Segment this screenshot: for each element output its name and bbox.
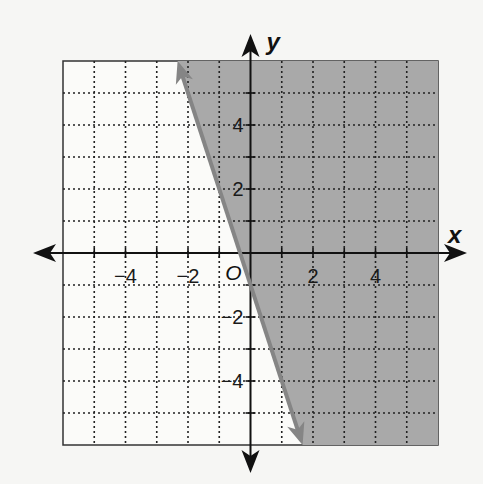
- y-axis-label: y: [266, 28, 282, 55]
- y-tick-label: 2: [232, 178, 243, 200]
- x-tick-label: 2: [307, 265, 318, 287]
- x-axis-label: x: [446, 221, 463, 248]
- y-tick-label: −4: [221, 370, 244, 392]
- y-tick-label: −2: [221, 306, 244, 328]
- x-tick-label: −2: [177, 265, 200, 287]
- origin-label: O: [225, 261, 241, 284]
- x-tick-label: −4: [114, 265, 137, 287]
- x-tick-label: 4: [370, 265, 381, 287]
- y-tick-label: 4: [232, 114, 243, 136]
- inequality-graph: −4−22442−2−4Oxy: [0, 0, 483, 484]
